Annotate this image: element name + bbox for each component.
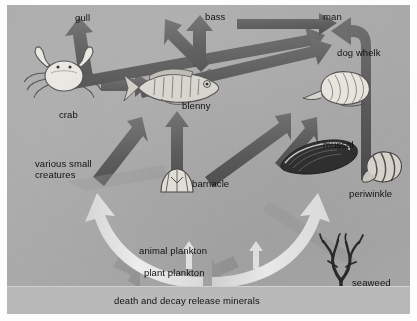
blenny-illustration [121,63,227,111]
label-bass: bass [205,11,225,22]
label-various-small-creatures-line1: various small [35,158,92,169]
label-mussel: mussel [323,139,354,150]
diagram-panel: gull bass man dog whelk crab blenny muss… [7,5,410,314]
dog-whelk-illustration [301,67,375,109]
label-man: man [323,11,342,22]
crab-illustration [21,43,107,105]
label-blenny: blenny [182,100,211,111]
label-death-and-decay: death and decay release minerals [114,295,260,306]
arrow-bass-to-man [237,13,337,35]
label-animal-plankton: animal plankton [139,245,207,256]
label-plant-plankton: plant plankton [144,267,205,278]
barnacle-illustration [157,165,197,195]
label-barnacle: barnacle [192,178,229,189]
label-dog-whelk: dog whelk [337,47,381,58]
label-periwinkle: periwinkle [349,188,392,199]
arrow-plant-to-animal-right [249,241,263,269]
label-various-small-creatures-line2: creatures [35,169,76,180]
food-web-diagram: gull bass man dog whelk crab blenny muss… [0,0,417,321]
label-gull: gull [75,12,90,23]
label-crab: crab [59,109,78,120]
periwinkle-illustration [359,147,407,187]
recycle-arcs [85,193,330,288]
